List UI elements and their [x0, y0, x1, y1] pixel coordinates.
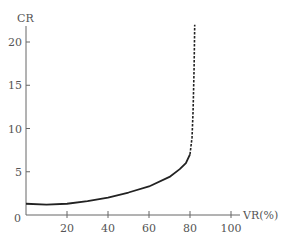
y-tick-label: 20: [8, 36, 22, 49]
x-tick-label: 100: [221, 222, 242, 235]
y-tick-label: 15: [8, 79, 22, 92]
origin-label: 0: [14, 212, 21, 225]
y-tick-label: 10: [8, 123, 22, 136]
chart: CR VR(%) 0 5101520 20406080100: [0, 0, 291, 242]
x-tick-label: 40: [101, 222, 115, 235]
dashed-curve: [190, 25, 195, 155]
x-axis-label: VR(%): [242, 209, 278, 222]
y-tick-label: 5: [15, 166, 22, 179]
x-tick-label: 60: [142, 222, 156, 235]
x-tick-label: 20: [60, 222, 74, 235]
solid-curve: [26, 154, 190, 204]
y-ticks: 5101520: [8, 36, 30, 179]
x-tick-label: 80: [183, 222, 197, 235]
data-series: [26, 25, 195, 205]
y-axis-label: CR: [17, 12, 34, 25]
